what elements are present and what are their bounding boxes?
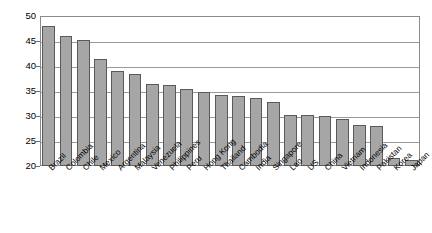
y-tick-label-45: 45 bbox=[12, 36, 36, 46]
y-tick-label-25: 25 bbox=[12, 136, 36, 146]
bar-chart: 20253035404550 BrazilColombiaChileMexico… bbox=[0, 0, 432, 233]
bar bbox=[60, 36, 73, 166]
y-tick-label-30: 30 bbox=[12, 111, 36, 121]
y-tick-label-50: 50 bbox=[12, 11, 36, 21]
y-tick-label-20: 20 bbox=[12, 161, 36, 171]
bar bbox=[94, 59, 107, 167]
bar bbox=[198, 92, 211, 167]
bar bbox=[42, 26, 55, 166]
y-tick-label-35: 35 bbox=[12, 86, 36, 96]
x-axis-tick-labels: BrazilColombiaChileMexicoArgentinaMalays… bbox=[40, 166, 420, 233]
y-tick-label-40: 40 bbox=[12, 61, 36, 71]
